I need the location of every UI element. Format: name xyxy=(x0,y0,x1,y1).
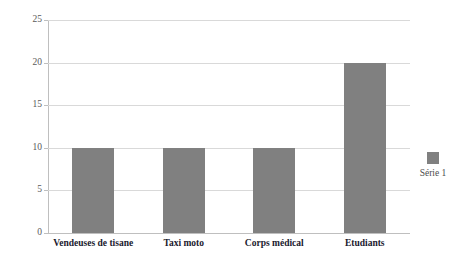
x-axis-category-labels: Vendeuses de tisaneTaxi motoCorps médica… xyxy=(48,236,410,258)
chart-legend: Série 1 xyxy=(405,152,461,179)
y-tick-label-25: 25 xyxy=(2,15,42,25)
bar xyxy=(72,148,114,233)
y-tick-label-5: 5 xyxy=(2,186,42,196)
y-tick-label-10: 10 xyxy=(2,143,42,153)
gridline-0 xyxy=(48,233,410,234)
legend-label-serie-1: Série 1 xyxy=(405,169,461,179)
category-label: Taxi moto xyxy=(139,236,230,250)
legend-swatch-serie-1 xyxy=(427,152,439,164)
bar xyxy=(344,63,386,233)
bar-chart: 0510152025 Vendeuses de tisaneTaxi motoC… xyxy=(0,0,464,270)
bars-layer xyxy=(48,20,410,233)
category-label: Etudiants xyxy=(320,236,411,250)
bar xyxy=(163,148,205,233)
category-label: Vendeuses de tisane xyxy=(48,236,139,250)
category-label: Corps médical xyxy=(229,236,320,250)
y-tick-label-15: 15 xyxy=(2,100,42,110)
y-tick-label-0: 0 xyxy=(2,228,42,238)
y-axis-tick-labels: 0510152025 xyxy=(0,20,42,233)
y-tick-label-20: 20 xyxy=(2,58,42,68)
bar xyxy=(253,148,295,233)
